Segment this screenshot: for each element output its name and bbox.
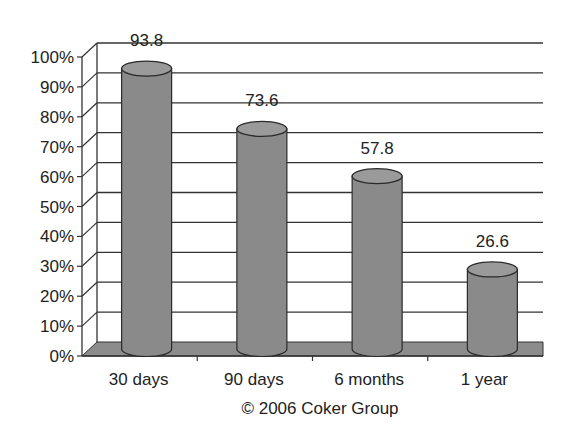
cylinder-top — [352, 169, 402, 184]
y-tick-label: 20% — [40, 287, 74, 306]
x-category-label: 90 days — [224, 370, 284, 389]
cylinder-body — [237, 129, 287, 357]
cylinder-top — [237, 121, 287, 136]
y-tick-label: 70% — [40, 138, 74, 157]
gridline-side — [82, 103, 97, 117]
y-tick-label: 30% — [40, 257, 74, 276]
bar-90-days — [237, 121, 287, 356]
x-category-label: 6 months — [334, 370, 404, 389]
bar-30-days — [122, 61, 172, 356]
chart-canvas: 0%10%20%30%40%50%60%70%80%90%100% 93.873… — [0, 0, 562, 435]
y-tick-label: 50% — [40, 198, 74, 217]
value-label: 93.8 — [130, 31, 163, 50]
gridline-side — [82, 312, 97, 326]
cylinder-bar-chart: 0%10%20%30%40%50%60%70%80%90%100% 93.873… — [0, 0, 562, 435]
value-label: 26.6 — [476, 232, 509, 251]
cylinder-body — [352, 176, 402, 356]
y-tick-label: 10% — [40, 317, 74, 336]
y-tick-label: 0% — [49, 347, 74, 366]
x-category-label: 1 year — [461, 370, 509, 389]
bar-1-year — [467, 262, 517, 357]
bar-6-months — [352, 169, 402, 357]
y-tick-label: 90% — [40, 78, 74, 97]
value-label: 57.8 — [361, 139, 394, 158]
gridline-side — [82, 133, 97, 147]
y-tick-label: 60% — [40, 168, 74, 187]
cylinder-body — [467, 269, 517, 356]
y-tick-label: 100% — [31, 48, 74, 67]
copyright-caption: © 2006 Coker Group — [241, 399, 398, 418]
value-labels: 93.873.657.826.6 — [130, 31, 509, 251]
y-tick-label: 40% — [40, 227, 74, 246]
gridline-side — [82, 193, 97, 207]
cylinder-top — [122, 61, 172, 76]
gridline-side — [82, 163, 97, 177]
gridline-side — [82, 222, 97, 236]
y-tick-label: 80% — [40, 108, 74, 127]
cylinder-body — [122, 69, 172, 357]
gridline-side — [82, 43, 97, 57]
gridline-side — [82, 252, 97, 266]
x-category-label: 30 days — [109, 370, 169, 389]
x-axis-categories: 30 days90 days6 months1 year — [109, 370, 508, 389]
value-label: 73.6 — [245, 91, 278, 110]
gridline-side — [82, 73, 97, 87]
gridline-side — [82, 282, 97, 296]
cylinder-top — [467, 262, 517, 277]
